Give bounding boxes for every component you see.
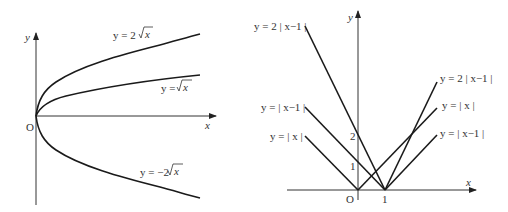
- svg-text:y =: y =: [161, 82, 175, 94]
- line-2abs-xm1-left: [305, 26, 385, 190]
- right-x-axis-label: x: [465, 176, 471, 188]
- label-2sqrtx: y = 2 x: [113, 27, 153, 41]
- label-abs-xm1-left: y = | x−1 |: [261, 101, 305, 113]
- tick-y-1: 1: [350, 160, 356, 172]
- svg-text:x: x: [182, 81, 188, 93]
- label-2abs-xm1-right: y = 2 | x−1 |: [440, 72, 493, 84]
- left-x-axis-label: x: [204, 119, 210, 131]
- left-origin-label: O: [26, 121, 34, 133]
- label-abs-x-left: y = | x |: [270, 130, 303, 142]
- line-abs-xm1-right: [385, 135, 437, 190]
- figure: y x O y = 2 x y = x y = −2 x y x O 1: [0, 0, 508, 212]
- left-y-axis-label: y: [24, 31, 30, 43]
- label-abs-x-right: y = | x |: [442, 99, 475, 111]
- svg-text:x: x: [173, 165, 179, 177]
- left-graph: y x O y = 2 x y = x y = −2 x: [24, 27, 216, 205]
- label-2abs-xm1-left: y = 2 | x−1 |: [254, 20, 307, 32]
- tick-x-1: 1: [382, 193, 388, 205]
- svg-text:x: x: [144, 28, 150, 40]
- label-sqrtx: y = x: [161, 80, 192, 94]
- right-origin-label: O: [346, 193, 354, 205]
- tick-y-2: 2: [350, 130, 356, 142]
- right-y-axis-label: y: [347, 11, 353, 23]
- right-graph: y x O 1 1 2 y = 2 | x−1 | y = | x−1 | y …: [254, 11, 493, 205]
- label-abs-xm1-right: y = | x−1 |: [440, 127, 484, 139]
- curve-neg2sqrtx: [36, 116, 200, 198]
- svg-text:y = −2: y = −2: [140, 166, 169, 178]
- curve-2sqrtx: [36, 34, 200, 116]
- svg-text:y = 2: y = 2: [113, 29, 136, 41]
- label-neg2sqrtx: y = −2 x: [140, 164, 183, 178]
